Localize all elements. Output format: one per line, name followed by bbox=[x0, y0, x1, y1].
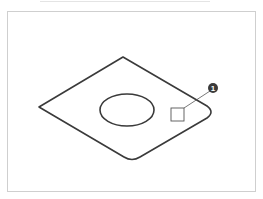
hole-ellipse bbox=[100, 94, 154, 126]
diagram-canvas: 1 bbox=[0, 0, 263, 199]
callout-1: 1 bbox=[208, 83, 218, 93]
callout-number: 1 bbox=[211, 84, 216, 93]
plate-outline bbox=[39, 57, 211, 160]
square-marker bbox=[171, 108, 184, 121]
